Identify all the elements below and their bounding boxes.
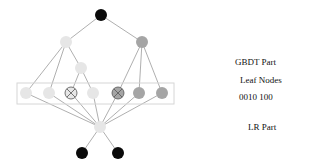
leaf-node bbox=[87, 87, 99, 99]
edge bbox=[142, 42, 162, 93]
edge bbox=[66, 15, 101, 42]
leaf-node bbox=[43, 87, 55, 99]
tree-node bbox=[75, 62, 87, 74]
leaf-node bbox=[65, 87, 77, 99]
edge bbox=[49, 42, 66, 93]
leaf-node bbox=[112, 87, 124, 99]
leaf-to-lr-edge bbox=[26, 93, 100, 127]
root-node bbox=[95, 9, 107, 21]
leaf-node bbox=[20, 87, 32, 99]
tree-edges bbox=[26, 15, 162, 153]
lr-node bbox=[94, 121, 106, 133]
gbdt-part-label: GBDT Part bbox=[235, 58, 276, 67]
leaf-code-label: 0010 100 bbox=[239, 93, 273, 102]
edge bbox=[101, 15, 142, 42]
output-node bbox=[112, 147, 124, 159]
leaf-node bbox=[156, 87, 168, 99]
edge bbox=[118, 42, 142, 93]
leaf-nodes-label: Leaf Nodes bbox=[240, 76, 282, 85]
tree-nodes bbox=[20, 9, 168, 159]
tree-node bbox=[136, 36, 148, 48]
lr-part-label: LR Part bbox=[248, 123, 276, 132]
tree-node bbox=[60, 36, 72, 48]
leaf-node bbox=[133, 87, 145, 99]
edge bbox=[139, 42, 142, 93]
edge bbox=[26, 42, 66, 93]
output-node bbox=[76, 147, 88, 159]
